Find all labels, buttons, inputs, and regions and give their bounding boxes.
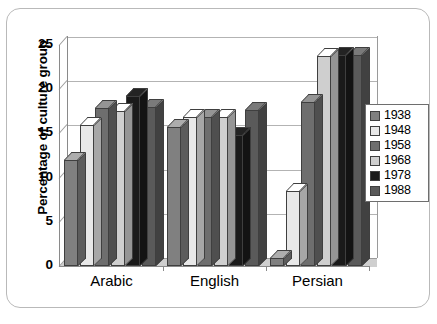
bar-arabic-1938 (64, 160, 78, 266)
legend-item-1938[interactable]: 1938 (370, 108, 425, 123)
bar-side (346, 47, 354, 266)
legend-item-1978[interactable]: 1978 (370, 168, 425, 183)
x-tick-separator (266, 266, 267, 271)
gridline (67, 37, 378, 38)
bar-face (64, 160, 78, 266)
legend: 193819481958196819781988 (365, 104, 429, 202)
bar-side (156, 99, 164, 266)
bar-face (167, 127, 181, 266)
bar-side (243, 127, 251, 266)
legend-item-1948[interactable]: 1948 (370, 123, 425, 138)
legend-swatch-icon (370, 171, 380, 181)
bar-side (300, 183, 308, 266)
bar-side (125, 104, 133, 266)
bar-side (181, 119, 189, 266)
y-tick-label: 10 (19, 169, 53, 184)
x-category-label-arabic: Arabic (60, 272, 163, 289)
x-category-label-persian: Persian (266, 272, 369, 289)
legend-item-1968[interactable]: 1968 (370, 153, 425, 168)
x-tick-separator (163, 266, 164, 271)
bar-face (270, 258, 284, 266)
axis-y-front (59, 45, 60, 267)
bar-side (212, 110, 220, 266)
bar-side (228, 110, 236, 266)
bar-side (259, 102, 267, 266)
x-tick-separator (369, 266, 370, 271)
legend-item-1988[interactable]: 1988 (370, 183, 425, 198)
bar-side (315, 95, 323, 266)
bar-side (140, 89, 148, 266)
legend-label: 1948 (384, 124, 411, 137)
legend-label: 1978 (384, 169, 411, 182)
y-tick-label: 20 (19, 80, 53, 95)
y-tick-label: 15 (19, 124, 53, 139)
legend-label: 1988 (384, 184, 411, 197)
legend-swatch-icon (370, 156, 380, 166)
legend-swatch-icon (370, 141, 380, 151)
legend-swatch-icon (370, 186, 380, 196)
bar-side (331, 49, 339, 266)
legend-label: 1938 (384, 109, 411, 122)
axis-x-front (59, 266, 369, 267)
legend-swatch-icon (370, 111, 380, 121)
bar-english-1938 (167, 127, 181, 266)
bar-side (94, 118, 102, 266)
legend-item-1958[interactable]: 1958 (370, 138, 425, 153)
bar-persian-1938 (270, 258, 284, 266)
y-tick-label: 0 (19, 257, 53, 272)
y-tick-label: 5 (19, 213, 53, 228)
bar-side (78, 152, 86, 266)
legend-label: 1958 (384, 139, 411, 152)
legend-swatch-icon (370, 126, 380, 136)
y-tick-label: 25 (19, 36, 53, 51)
x-category-label-english: English (163, 272, 266, 289)
bar-side (109, 100, 117, 266)
bar-side (197, 110, 205, 266)
legend-label: 1968 (384, 154, 411, 167)
